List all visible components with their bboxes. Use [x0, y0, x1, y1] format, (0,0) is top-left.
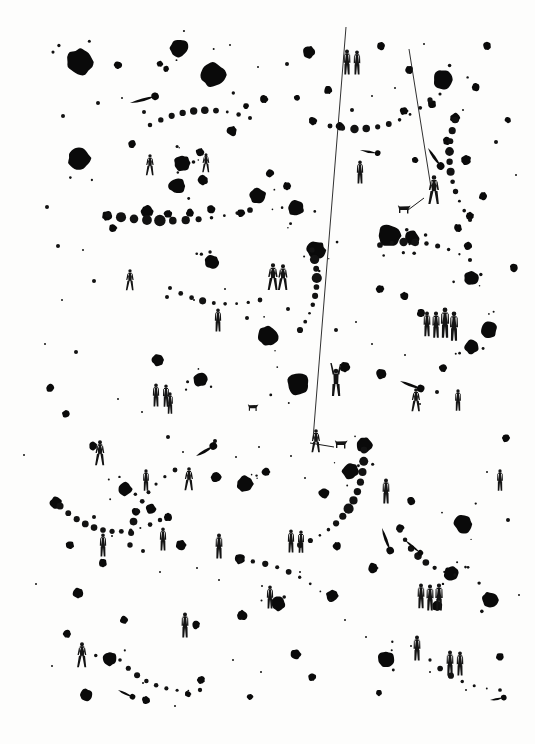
ink-speck	[404, 354, 406, 356]
person-walking-dog	[409, 49, 439, 204]
ink-speck	[224, 288, 226, 290]
two-figures-standing	[153, 383, 169, 406]
ink-blot	[334, 462, 359, 486]
ink-blot	[164, 210, 172, 217]
figure-with-raised-arm	[330, 363, 341, 396]
ink-speck	[165, 295, 169, 299]
ink-speck	[121, 97, 123, 99]
ink-speck	[235, 456, 237, 458]
ink-blot	[186, 209, 194, 217]
two-figures-facing	[288, 529, 304, 552]
ink-blot	[141, 205, 154, 217]
ink-blot	[308, 674, 316, 681]
ink-speck	[245, 316, 249, 320]
ink-speck	[365, 636, 367, 638]
ink-streak	[194, 441, 218, 459]
ink-blot	[46, 384, 54, 392]
ink-blot	[376, 285, 385, 293]
ink-blot	[128, 140, 136, 148]
spatter-trail	[428, 658, 502, 692]
dog-small	[248, 404, 259, 411]
ink-blot	[461, 155, 471, 165]
two-figures-standing	[447, 650, 464, 675]
ink-streak	[490, 694, 508, 703]
ink-speck	[142, 682, 144, 684]
ink-blot	[185, 691, 191, 697]
two-figures-walking	[268, 263, 288, 290]
ink-blot	[192, 621, 200, 630]
spatter-trail	[148, 106, 252, 127]
standing-figure	[216, 533, 223, 558]
ink-blot	[120, 616, 128, 624]
ink-blot	[237, 610, 247, 620]
ink-streak	[378, 527, 395, 556]
ink-blot	[318, 489, 329, 499]
ink-blot	[407, 497, 415, 505]
ink-speck	[261, 585, 263, 587]
ink-blot	[378, 641, 395, 672]
ink-blot	[174, 145, 199, 171]
ink-speck	[286, 307, 290, 311]
ink-streak	[399, 377, 426, 393]
ink-blot	[249, 188, 275, 211]
ink-speck	[166, 435, 170, 439]
ink-blot	[400, 292, 408, 300]
ink-blot	[333, 542, 341, 550]
walking-figure	[202, 153, 209, 172]
ink-blot	[283, 182, 291, 190]
ink-speck	[371, 343, 373, 345]
ink-blot	[303, 241, 338, 273]
ink-blot	[146, 504, 157, 514]
ink-blot	[266, 169, 274, 177]
ink-blot	[170, 30, 189, 61]
ink-blot	[243, 103, 249, 109]
ink-speck	[304, 477, 306, 479]
ink-speck	[45, 205, 49, 209]
ink-blot	[142, 696, 150, 704]
ink-speck	[61, 299, 63, 301]
ink-blot	[152, 354, 164, 366]
ink-speck	[435, 390, 439, 394]
ink-speck	[506, 518, 510, 522]
ink-speck	[74, 350, 78, 354]
standing-figure	[215, 308, 221, 331]
standing-figure	[357, 160, 363, 183]
ink-speck	[344, 619, 346, 621]
ink-blot	[207, 205, 215, 213]
ink-speck	[182, 451, 184, 453]
ink-speck	[61, 114, 65, 118]
ink-speck	[23, 454, 25, 456]
ink-blot	[505, 117, 511, 123]
ink-blot	[68, 148, 93, 182]
ink-speck	[258, 446, 260, 448]
ink-blot	[439, 364, 447, 372]
standing-figure	[182, 612, 189, 637]
ink-blot	[294, 95, 300, 101]
ink-speck	[518, 594, 520, 596]
ink-blot	[99, 559, 107, 567]
ink-blot	[227, 126, 237, 136]
ink-blot	[247, 694, 254, 700]
standing-figure	[100, 533, 106, 556]
ink-blot	[376, 369, 386, 379]
ink-blot	[51, 40, 93, 76]
ink-blot	[63, 630, 71, 638]
ink-blot	[510, 264, 518, 273]
ink-blot	[114, 61, 122, 69]
ink-speck	[196, 567, 198, 569]
ink-blot	[176, 540, 187, 550]
ink-blot	[502, 434, 510, 442]
ink-streak	[360, 147, 382, 156]
ink-blot	[198, 175, 208, 186]
ink-speck	[355, 321, 357, 323]
spatter-trail	[168, 286, 262, 306]
ink-splatter-artwork	[0, 0, 535, 744]
ink-speck	[92, 279, 96, 283]
spatter-trail	[105, 207, 253, 226]
ink-speck	[141, 549, 145, 553]
spatter-trail	[377, 238, 472, 262]
standing-figure	[455, 389, 461, 410]
ink-blot	[66, 541, 74, 549]
ink-speck	[174, 705, 176, 707]
ink-streak	[129, 92, 160, 107]
